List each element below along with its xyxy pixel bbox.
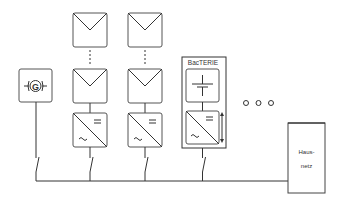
generator-symbol: G (32, 82, 39, 92)
system-diagram: G (0, 0, 347, 206)
pv-2-switch[interactable] (145, 157, 148, 172)
battery-label: BacTERIE (188, 59, 219, 66)
more-units-ellipsis (244, 101, 274, 106)
bidirectional-inverter-icon (186, 111, 219, 144)
house-grid: Haus- netz (288, 123, 325, 193)
battery-switch[interactable] (203, 157, 206, 172)
pv-string-1 (73, 13, 107, 181)
battery-icon (186, 69, 219, 102)
inverter-icon (73, 113, 107, 147)
battery-system: BacTERIE (182, 57, 226, 181)
pv-1-switch[interactable] (90, 157, 93, 172)
pv-string-2 (128, 13, 162, 181)
inverter-icon (128, 113, 162, 147)
house-grid-label-2: netz (301, 163, 312, 169)
generator-switch[interactable] (36, 157, 39, 172)
generator-unit: G (19, 69, 52, 181)
house-grid-box (288, 123, 325, 193)
house-grid-label-1: Haus- (298, 149, 314, 155)
